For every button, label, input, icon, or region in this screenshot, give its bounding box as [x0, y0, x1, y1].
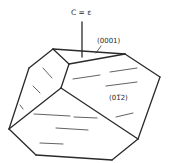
hatching-right-face [73, 68, 137, 117]
edge-lower-right [112, 139, 138, 160]
edge-lower-left [9, 129, 36, 155]
edge-top-left [53, 49, 69, 64]
top-face-label: (0001) [97, 37, 121, 45]
crystal-svg: C = ε (0001) [0, 0, 176, 163]
edge-inner-vertical [61, 64, 69, 88]
edge-top-back [53, 49, 125, 54]
crystal-outline [9, 49, 160, 160]
hatching-lower-face [34, 114, 97, 144]
side-face-label: (01̅2) [109, 94, 128, 102]
edge-upper-left [29, 49, 53, 68]
edge-top-front [69, 54, 125, 64]
hatching-upper-left-face [20, 68, 52, 109]
edge-bottom [36, 155, 112, 160]
edge-right [138, 77, 160, 139]
edge-left [9, 68, 29, 129]
crystal-diagram: C = ε (0001) [0, 0, 176, 163]
axis-label: C = ε [71, 8, 91, 17]
edge-inner-left [9, 88, 61, 129]
edge-upper-right [125, 54, 160, 77]
